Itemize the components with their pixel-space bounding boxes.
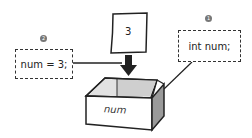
paper-value-text: 3 (125, 26, 131, 37)
container-label-text: num (104, 103, 127, 116)
variable-assignment-diagram: 2 num = 3; 1 int num; 3 num (0, 0, 252, 138)
assign-code-box: num = 3; (15, 49, 73, 79)
step-1-badge: 1 (205, 15, 212, 22)
declare-code-box: int num; (178, 30, 241, 62)
declare-connector-line (164, 62, 192, 89)
down-arrow-icon (120, 55, 137, 76)
step-2-badge: 2 (40, 35, 47, 42)
declare-code-text: int num; (188, 41, 230, 52)
assign-code-text: num = 3; (21, 59, 68, 70)
